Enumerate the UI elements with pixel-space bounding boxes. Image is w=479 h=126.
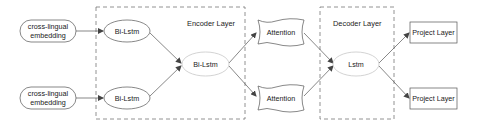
bilstm-bottom-label: Bi-Lstm (115, 94, 139, 103)
edge-lstm-to-project-bottom (379, 66, 409, 98)
edge-attention-bottom-to-lstm (304, 66, 333, 96)
node-bilstm-bottom: Bi-Lstm (104, 87, 150, 109)
edge-bilstm-top-to-center (150, 33, 181, 63)
node-bilstm-center: Bi-Lstm (182, 52, 229, 76)
edge-lstm-to-project-top (379, 33, 409, 63)
node-project-bottom: Project Layer (410, 88, 457, 109)
project-top-label: Project Layer (412, 28, 455, 37)
edge-attention-top-to-lstm (304, 33, 333, 63)
encoder-layer-label: Encoder Layer (187, 19, 236, 28)
embedding-top-line1: cross-lingual (28, 22, 69, 31)
node-project-top: Project Layer (410, 22, 457, 43)
node-lstm: Lstm (333, 52, 379, 76)
decoder-layer-label: Decoder Layer (333, 19, 382, 28)
lstm-label: Lstm (348, 60, 364, 69)
attention-top-label: Attention (267, 28, 295, 37)
attention-bottom-label: Attention (267, 94, 295, 103)
node-embedding-bottom: cross-lingual embedding (20, 87, 76, 109)
bilstm-center-label: Bi-Lstm (193, 60, 217, 69)
bilstm-top-label: Bi-Lstm (115, 27, 139, 36)
project-bottom-label: Project Layer (412, 94, 455, 103)
edge-bilstm-bottom-to-center (150, 66, 181, 96)
embedding-bottom-line2: embedding (30, 98, 66, 107)
edge-center-to-attention-bottom (229, 66, 256, 96)
node-bilstm-top: Bi-Lstm (104, 20, 150, 42)
embedding-bottom-line1: cross-lingual (28, 89, 69, 98)
embedding-top-line2: embedding (30, 31, 66, 40)
model-architecture-diagram: Encoder Layer Decoder Layer cross-lingua… (0, 0, 479, 126)
node-embedding-top: cross-lingual embedding (20, 20, 76, 42)
node-attention-bottom: Attention (258, 85, 304, 112)
edge-center-to-attention-top (229, 33, 256, 63)
node-attention-top: Attention (258, 19, 304, 46)
